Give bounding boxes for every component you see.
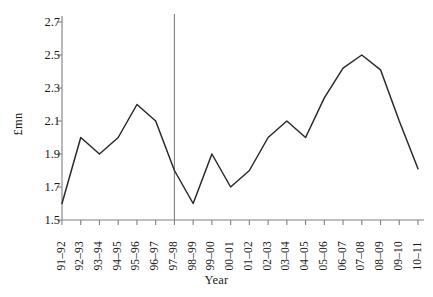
y-tick-label: 2.3 [30,82,60,95]
x-tick-label: 00–01 [224,241,236,270]
line-chart: £mn 1.51.71.92.12.32.52.7 91–9292–9393–9… [0,0,433,297]
x-tick-label: 99–00 [205,241,217,270]
x-tick-label: 03–04 [280,241,292,270]
y-tick-label: 1.5 [30,214,60,227]
x-tick-label: 94–95 [111,241,123,270]
y-tick-label: 1.9 [30,148,60,161]
x-tick-label: 05–06 [317,241,329,270]
y-tick-label: 2.1 [30,115,60,128]
x-tick-label: 10–11 [411,241,423,270]
x-tick-label: 06–07 [336,241,348,270]
data-series-line [62,55,418,204]
x-tick-label: 04–05 [299,241,311,270]
x-tick-label: 07–08 [355,241,367,270]
x-tick-label: 96–97 [149,241,161,270]
x-tick-label: 92–93 [74,241,86,270]
y-tick-label: 1.7 [30,181,60,194]
x-tick-label: 02–03 [261,241,273,270]
x-tick-label: 09–10 [392,241,404,270]
x-tick-label: 01–02 [242,241,254,270]
x-tick-label: 98–99 [186,241,198,270]
y-tick-label: 2.7 [30,16,60,29]
x-tick-label: 93–94 [92,241,104,270]
x-axis-title: Year [0,273,433,288]
x-tick-label: 95–96 [130,241,142,270]
x-tick-label: 97–98 [167,241,179,270]
x-tick-label: 91–92 [55,241,67,270]
x-tick-label: 08–09 [374,241,386,270]
y-tick-label: 2.5 [30,49,60,62]
